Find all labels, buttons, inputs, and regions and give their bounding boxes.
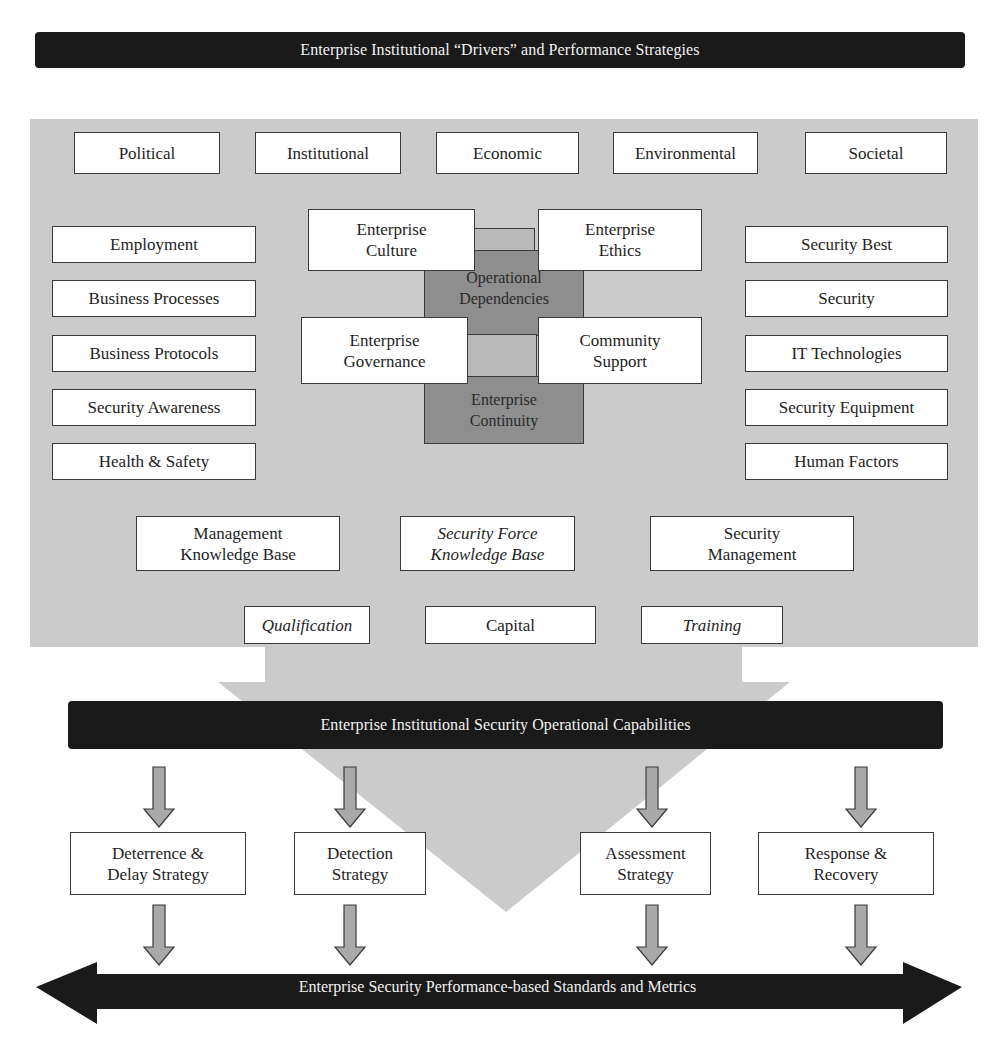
strategy-response-recovery: Response & Recovery	[758, 832, 934, 895]
down-arrow-icon	[846, 767, 876, 827]
strategy-detection: Detection Strategy	[294, 832, 426, 895]
down-arrow-icon	[846, 905, 876, 965]
down-arrow-icon	[335, 767, 365, 827]
down-arrow-icon	[637, 767, 667, 827]
down-arrow-icon	[144, 905, 174, 965]
strategy-deterrence-delay: Deterrence & Delay Strategy	[70, 832, 246, 895]
strategy-assessment: Assessment Strategy	[580, 832, 711, 895]
down-arrow-icon	[637, 905, 667, 965]
down-arrow-icon	[144, 767, 174, 827]
metrics-title: Enterprise Security Performance-based St…	[299, 978, 697, 996]
metrics-bar-label: Enterprise Security Performance-based St…	[0, 975, 995, 999]
down-arrow-icon	[335, 905, 365, 965]
